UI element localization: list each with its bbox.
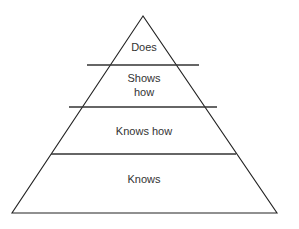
level-label-shows-how-line1: Shows [127,72,161,84]
level-label-knows-how: Knows how [116,125,172,137]
level-label-knows: Knows [127,173,161,185]
level-label-shows-how-line2: how [134,86,154,98]
level-label-does: Does [131,41,157,53]
pyramid-diagram: Does Shows how Knows how Knows [0,0,299,229]
